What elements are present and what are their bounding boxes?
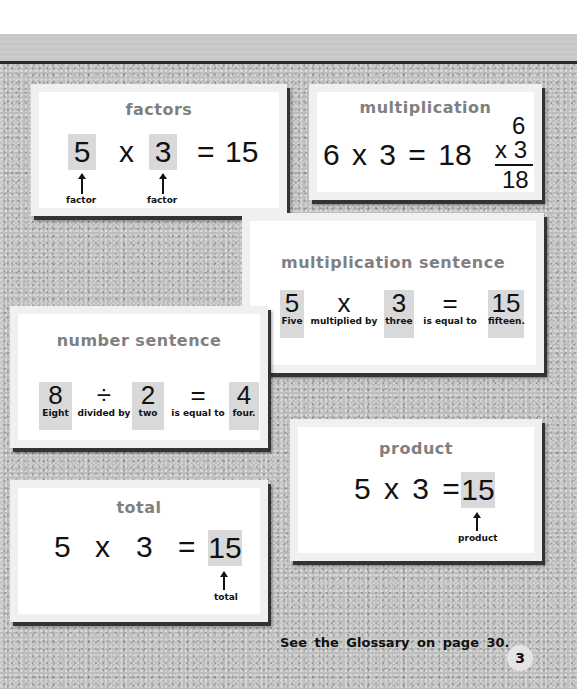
wood-frame bbox=[0, 34, 577, 62]
total-b: 3 bbox=[136, 532, 153, 562]
vertical-result: 18 bbox=[502, 168, 529, 192]
equals-sign: = bbox=[178, 532, 196, 562]
product-equation: 5 x 3 = bbox=[354, 474, 460, 504]
tile-multiplied-by: x multiplied by bbox=[310, 290, 378, 338]
operator-times: x bbox=[95, 532, 110, 562]
card-multiplication: multiplication 6 x 3 = 18 6 x 3 18 bbox=[309, 84, 542, 200]
card-factors: factors 5 x 3 = 15 factor factor bbox=[31, 84, 287, 216]
multiplication-equation: 6 x 3 = 18 bbox=[323, 140, 472, 170]
card-title: number sentence bbox=[18, 331, 260, 350]
card-total: total 5 x 3 = 15 total bbox=[10, 480, 268, 622]
card-title: multiplication sentence bbox=[250, 253, 536, 272]
tile-is-equal-to: = is equal to bbox=[418, 290, 482, 338]
product-label: product bbox=[458, 533, 498, 543]
card-title: total bbox=[18, 498, 260, 517]
tile-divided-by: ÷ divided by bbox=[74, 382, 134, 430]
arrow-up-icon bbox=[162, 178, 164, 194]
card-title: multiplication bbox=[317, 98, 534, 117]
operator-times: x bbox=[119, 137, 134, 167]
vertical-multiplier: x 3 bbox=[495, 138, 527, 162]
glossary-reference: See the Glossary on page 30. bbox=[280, 635, 510, 650]
tile-three: 3 three bbox=[384, 290, 414, 338]
tile-two: 2 two bbox=[132, 382, 164, 430]
card-title: product bbox=[298, 439, 534, 458]
card-title: factors bbox=[39, 100, 279, 119]
tile-is-equal-to: = is equal to bbox=[166, 382, 230, 430]
total-a: 5 bbox=[54, 532, 71, 562]
product-value: 15 bbox=[225, 137, 258, 167]
card-product: product 5 x 3 = 15 product bbox=[290, 419, 542, 561]
page-top-margin bbox=[0, 0, 577, 34]
tile-eight: 8 Eight bbox=[39, 382, 72, 430]
total-value: 15 bbox=[208, 530, 242, 566]
tile-fifteen: 15 fifteen. bbox=[488, 290, 524, 338]
factor-a: 5 bbox=[68, 134, 96, 170]
factor-label-b: factor bbox=[147, 195, 177, 205]
arrow-up-icon bbox=[476, 517, 478, 531]
equals-sign: = bbox=[197, 137, 215, 167]
card-multiplication-sentence: multiplication sentence 5 Five x multipl… bbox=[242, 213, 544, 373]
page-number: 3 bbox=[507, 645, 533, 671]
arrow-up-icon bbox=[81, 178, 83, 194]
card-number-sentence: number sentence 8 Eight ÷ divided by 2 t… bbox=[10, 306, 268, 448]
total-label: total bbox=[214, 592, 238, 602]
factor-label-a: factor bbox=[66, 195, 96, 205]
tile-four: 4 four. bbox=[229, 382, 259, 430]
product-value: 15 bbox=[461, 472, 495, 508]
arrow-up-icon bbox=[223, 576, 225, 590]
factor-b: 3 bbox=[149, 134, 177, 170]
tile-five: 5 Five bbox=[280, 290, 304, 338]
vertical-top: 6 bbox=[512, 114, 525, 138]
